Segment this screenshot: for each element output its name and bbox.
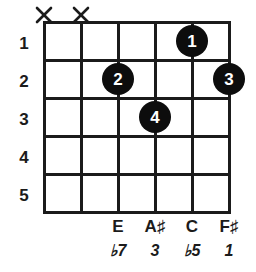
finger-dot-1: 1 [176,25,208,57]
finger-dot-4: 4 [139,101,171,133]
string-line-1 [43,21,46,212]
finger-dot-2: 2 [102,63,134,95]
fret-line-5 [43,211,231,214]
mute-x-icon-string-1 [35,6,53,24]
string-line-6 [228,21,231,212]
interval-label-string-5: ♭5 [172,243,212,259]
fret-number-2: 2 [13,73,35,90]
note-label-string-6: F♯ [209,218,249,235]
fret-number-1: 1 [13,35,35,52]
mute-x-icon-string-2 [72,6,90,24]
fret-line-4 [43,173,231,176]
note-label-string-3: E [98,218,138,235]
fret-number-3: 3 [13,111,35,128]
finger-dot-3: 3 [213,63,245,95]
chord-diagram: 1 2 3 4 5 1 2 3 4 E A♯ C F♯ ♭7 3 ♭5 1 [0,0,256,272]
fret-number-5: 5 [13,187,35,204]
fret-line-2 [43,97,231,100]
interval-label-string-6: 1 [209,243,249,259]
note-label-string-5: C [172,218,212,235]
fret-line-1 [43,59,231,62]
note-label-string-4: A♯ [135,218,175,235]
string-line-3 [117,21,120,212]
fret-line-3 [43,135,231,138]
string-line-2 [80,21,83,212]
fret-number-4: 4 [13,149,35,166]
interval-label-string-3: ♭7 [98,243,138,259]
interval-label-string-4: 3 [135,243,175,259]
